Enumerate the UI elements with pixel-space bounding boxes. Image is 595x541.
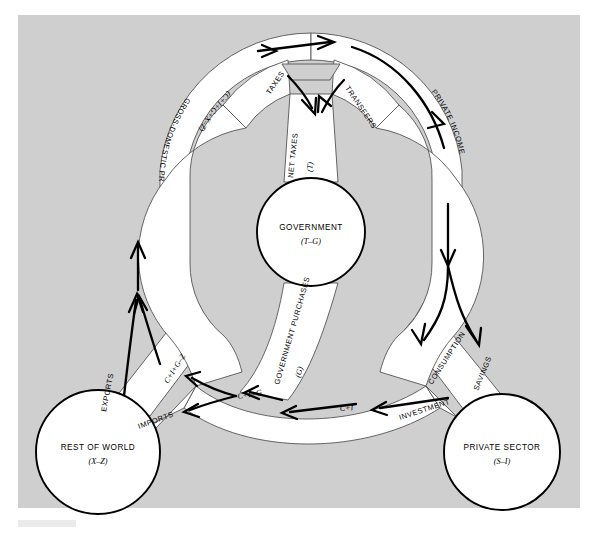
inner-right-pipe <box>376 105 484 386</box>
node-private-sector[interactable]: PRIVATE SECTOR (S–I) <box>444 394 560 510</box>
node-rest-of-world-label: REST OF WORLD <box>61 443 136 452</box>
node-private-sector-sublabel: (S–I) <box>494 457 511 466</box>
circular-flow-svg: GOVERNMENT (T–G) REST OF WORLD (X–Z) PRI… <box>0 0 595 541</box>
node-rest-of-world-sublabel: (X–Z) <box>88 457 107 466</box>
flow-label-consumption-investment: C+I <box>340 403 354 413</box>
diagram-canvas: GOVERNMENT (T–G) REST OF WORLD (X–Z) PRI… <box>0 0 595 541</box>
node-rest-of-world[interactable]: REST OF WORLD (X–Z) <box>36 390 160 514</box>
node-government-sublabel: (T–G) <box>301 237 321 246</box>
flow-label-net-taxes-equation: (T) <box>305 161 315 172</box>
node-government[interactable]: GOVERNMENT (T–G) <box>257 178 365 286</box>
node-government-label: GOVERNMENT <box>279 223 343 232</box>
node-private-sector-label: PRIVATE SECTOR <box>463 443 540 452</box>
flow-label-gross-domestic-product: GROSS-DOMESTIC PRODUCT <box>0 0 192 182</box>
